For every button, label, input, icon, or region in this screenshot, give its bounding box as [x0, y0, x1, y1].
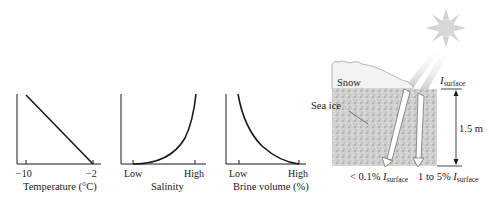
tick-label-max: −2: [86, 168, 97, 179]
tick-label-high: High: [288, 168, 308, 179]
bottom-irradiance-high-label: 1 to 5% Isurface: [418, 171, 478, 185]
tick-label-low: Low: [229, 168, 247, 179]
bottom-irradiance-low-label: < 0.1% Isurface: [350, 171, 408, 185]
temperature-curve: [26, 95, 93, 164]
snow-label: Snow: [337, 77, 361, 88]
temperature-axis-title: Temperature (°C): [23, 181, 97, 193]
thickness-label: 1.5 m: [459, 123, 483, 134]
salinity-axis-title: Salinity: [151, 181, 184, 193]
tick-label-low: Low: [124, 168, 142, 179]
brine-axis-title: Brine volume (%): [233, 181, 309, 193]
surface-irradiance-label: Isurface: [440, 75, 465, 89]
salinity-curve: [133, 94, 196, 164]
tick-label-min: −10: [16, 168, 32, 179]
sea-ice-label: Sea ice: [311, 100, 341, 111]
brine-graph: [226, 94, 306, 164]
tick-label-high: High: [184, 168, 204, 179]
salinity-graph: [121, 94, 206, 164]
brine-curve: [238, 94, 299, 164]
temperature-graph: [17, 94, 101, 164]
sun-icon: [426, 8, 466, 48]
